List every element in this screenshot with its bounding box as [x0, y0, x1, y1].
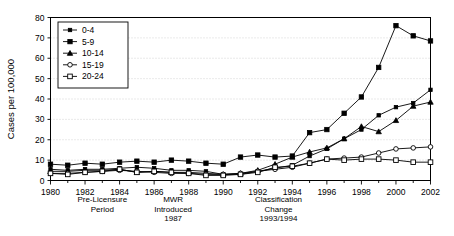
marker-open-square [83, 170, 88, 175]
marker-open-circle [68, 63, 73, 68]
marker-open-square [135, 170, 140, 175]
marker-filled-square [48, 162, 52, 166]
varicella-incidence-chart: 01020304050607080 1980198219841986198819… [0, 0, 454, 236]
marker-open-square [307, 161, 312, 166]
marker-open-square [65, 172, 70, 177]
marker-open-square [325, 157, 330, 162]
legend-label-0-4: 0-4 [82, 25, 95, 35]
marker-open-square [221, 173, 226, 178]
y-tick-label: 50 [35, 74, 45, 84]
legend: 0-45-910-1415-1920-24 [58, 22, 128, 88]
x-tick-label: 1990 [214, 187, 233, 197]
marker-filled-square [169, 158, 173, 162]
marker-open-square [117, 167, 122, 172]
marker-small-filled-square [68, 28, 71, 31]
y-tick-label: 70 [35, 33, 45, 43]
y-tick-label: 20 [35, 135, 45, 145]
annotation-line: Change [264, 205, 293, 214]
marker-filled-square [135, 159, 139, 163]
marker-open-square [273, 165, 278, 170]
annotation-line: MWR [163, 195, 183, 204]
marker-open-square [238, 172, 243, 177]
marker-filled-square [411, 34, 415, 38]
marker-open-square [290, 164, 295, 169]
marker-filled-square [152, 160, 156, 164]
marker-open-square [68, 74, 73, 79]
marker-filled-square [83, 161, 87, 165]
marker-filled-square [428, 39, 432, 43]
x-tick-label: 2002 [421, 187, 440, 197]
y-axis-label: Cases per 100,000 [5, 59, 16, 139]
marker-filled-square [68, 39, 72, 43]
marker-open-circle [376, 151, 381, 156]
marker-open-square [342, 158, 347, 163]
legend-label-15-19: 15-19 [82, 60, 104, 70]
chart-canvas: 01020304050607080 1980198219841986198819… [0, 0, 454, 236]
marker-open-square [255, 170, 260, 175]
marker-open-circle [428, 145, 433, 150]
marker-filled-square [394, 23, 398, 27]
annotation-line: Pre-Licensure [77, 195, 127, 204]
marker-filled-square [186, 159, 190, 163]
marker-filled-square [238, 155, 242, 159]
marker-open-circle [394, 147, 399, 152]
x-tick-label: 2000 [386, 187, 405, 197]
marker-open-square [376, 157, 381, 162]
y-tick-label: 40 [35, 94, 45, 104]
annotation-line: Classification [255, 195, 302, 204]
annotation-line: 1987 [164, 214, 182, 223]
marker-filled-square [204, 161, 208, 165]
marker-open-square [359, 157, 364, 162]
marker-open-square [186, 171, 191, 176]
marker-filled-square [100, 162, 104, 166]
y-tick-label: 80 [35, 13, 45, 23]
marker-small-filled-square [394, 105, 397, 108]
annotation-line: Introduced [154, 205, 192, 214]
legend-label-10-14: 10-14 [82, 48, 104, 58]
x-tick-label: 1998 [352, 187, 371, 197]
annotation-line: Period [91, 205, 114, 214]
x-tick-label: 1980 [41, 187, 60, 197]
marker-open-square [152, 169, 157, 174]
marker-filled-square [307, 130, 311, 134]
marker-filled-square [221, 162, 225, 166]
y-tick-label: 60 [35, 53, 45, 63]
annotation-line: 1993/1994 [260, 214, 298, 223]
legend-label-5-9: 5-9 [82, 37, 95, 47]
marker-small-filled-square [135, 166, 138, 169]
marker-filled-square [325, 127, 329, 131]
marker-small-filled-square [308, 154, 311, 157]
marker-open-square [100, 169, 105, 174]
marker-small-filled-square [429, 88, 432, 91]
y-tick-label: 0 [40, 176, 45, 186]
marker-small-filled-square [377, 114, 380, 117]
legend-label-20-24: 20-24 [82, 71, 104, 81]
marker-filled-square [66, 163, 70, 167]
marker-filled-square [342, 111, 346, 115]
y-tick-label: 10 [35, 155, 45, 165]
marker-open-circle [411, 146, 416, 151]
marker-open-square [169, 170, 174, 175]
x-tick-label: 1996 [317, 187, 336, 197]
marker-filled-square [376, 65, 380, 69]
y-axis-label-text: Cases per 100,000 [5, 59, 16, 139]
marker-filled-square [359, 95, 363, 99]
marker-open-square [411, 160, 416, 165]
marker-open-square [394, 158, 399, 163]
marker-open-square [48, 171, 53, 176]
marker-filled-square [256, 153, 260, 157]
x-tick-label: 1986 [145, 187, 164, 197]
marker-filled-square [273, 155, 277, 159]
y-tick-label: 30 [35, 114, 45, 124]
marker-filled-square [117, 160, 121, 164]
marker-open-square [204, 173, 209, 178]
marker-open-square [428, 160, 433, 165]
